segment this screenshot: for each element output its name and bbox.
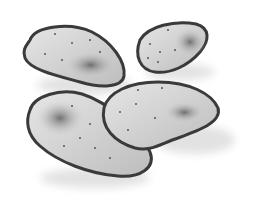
chip-top-right	[138, 23, 207, 73]
chips-illustration	[0, 0, 253, 202]
chip-top-left	[24, 26, 124, 85]
